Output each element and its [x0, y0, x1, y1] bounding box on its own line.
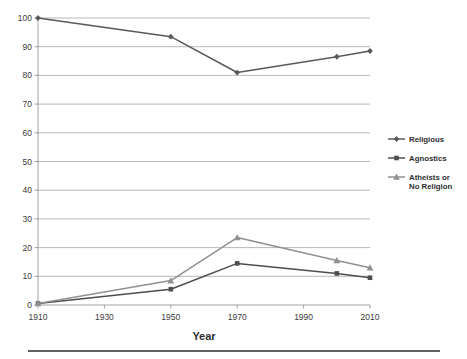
legend-label-line2: No Religion: [409, 182, 453, 191]
y-tick-label: 90: [23, 42, 33, 52]
data-point: [235, 261, 240, 266]
y-tick-label: 0: [27, 300, 32, 310]
data-point: [368, 275, 373, 280]
x-axis-title: Year: [192, 330, 216, 342]
y-tick-label: 100: [18, 13, 32, 23]
legend-marker: [394, 156, 399, 161]
x-tick-label: 1950: [161, 312, 180, 322]
data-point: [169, 287, 174, 292]
x-tick-label: 1970: [228, 312, 247, 322]
x-tick-label: 1910: [29, 312, 48, 322]
y-tick-label: 70: [23, 99, 33, 109]
legend-label: Religious: [409, 135, 445, 144]
x-tick-label: 2010: [361, 312, 380, 322]
chart-figure: 0102030405060708090100 19101930195019701…: [0, 0, 467, 359]
y-tick-label: 60: [23, 128, 33, 138]
y-tick-label: 50: [23, 157, 33, 167]
line-chart: 0102030405060708090100 19101930195019701…: [0, 0, 467, 359]
y-tick-label: 20: [23, 243, 33, 253]
x-tick-label: 1990: [294, 312, 313, 322]
y-tick-label: 80: [23, 70, 33, 80]
data-point: [335, 271, 340, 276]
x-tick-label: 1930: [95, 312, 114, 322]
y-tick-label: 30: [23, 214, 33, 224]
legend-label: Atheists or: [409, 173, 450, 182]
y-tick-label: 10: [23, 271, 33, 281]
legend-label: Agnostics: [409, 154, 447, 163]
y-tick-label: 40: [23, 185, 33, 195]
